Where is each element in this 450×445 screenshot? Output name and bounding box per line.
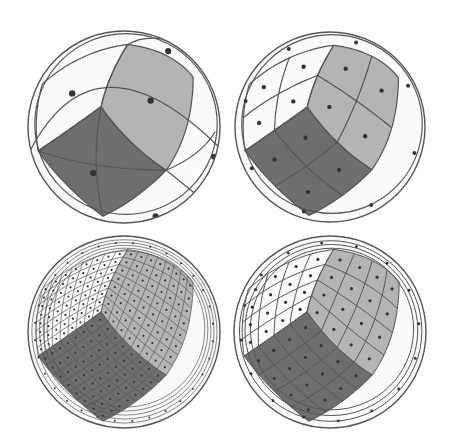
sphere-panel-top-right xyxy=(235,32,425,222)
sphere-panel-top-left xyxy=(28,31,220,223)
sphere-panel-bottom-right xyxy=(234,236,426,428)
sphere-panel-bottom-left xyxy=(28,236,220,428)
figure-canvas xyxy=(0,0,450,445)
sphere-pixelization-figure xyxy=(0,0,450,445)
